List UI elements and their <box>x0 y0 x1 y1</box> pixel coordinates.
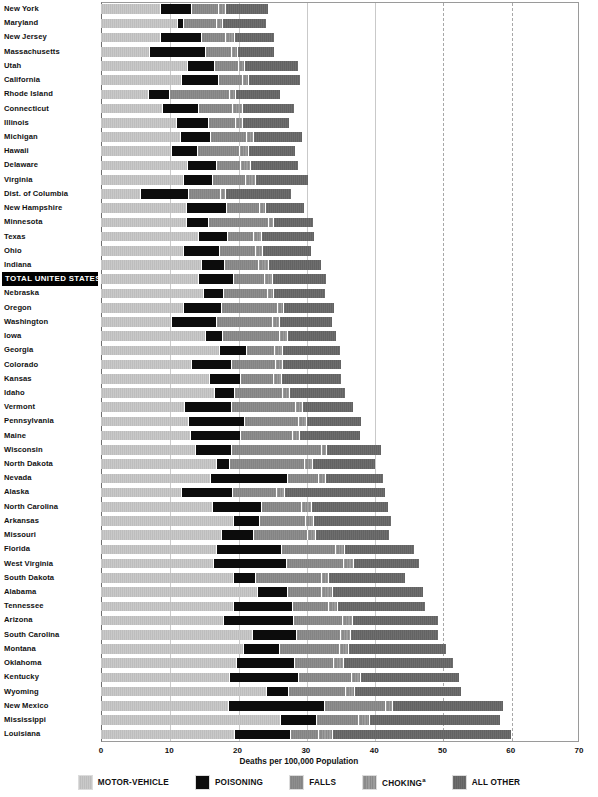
bar-row: South Dakota <box>0 571 598 585</box>
row-label: Rhode Island <box>4 87 96 101</box>
stacked-bar <box>101 203 304 213</box>
segment-choking <box>273 374 281 384</box>
segment-choking <box>279 331 287 341</box>
bar-row: Maryland <box>0 16 598 30</box>
legend-swatch-motor <box>78 775 93 790</box>
bar-row: Iowa <box>0 329 598 343</box>
segment-other <box>237 47 274 57</box>
legend-swatch-poison <box>195 775 210 790</box>
row-label: Montana <box>4 642 96 656</box>
segment-poison <box>186 203 226 213</box>
segment-falls <box>259 516 305 526</box>
segment-poison <box>198 232 227 242</box>
segment-other <box>244 61 298 71</box>
bar-row: Colorado <box>0 358 598 372</box>
segment-falls <box>255 573 321 583</box>
segment-choking <box>339 644 348 654</box>
segment-other <box>261 232 314 242</box>
stacked-bar <box>101 559 419 569</box>
segment-poison <box>214 388 234 398</box>
bar-row: TOTAL UNITED STATES <box>0 272 598 286</box>
stacked-bar <box>101 516 391 526</box>
x-tick-label: 60 <box>506 746 515 755</box>
legend-item-falls[interactable]: FALLS <box>289 775 336 790</box>
bar-row: Idaho <box>0 386 598 400</box>
row-label: West Virginia <box>4 557 96 571</box>
segment-choking <box>321 587 332 597</box>
bar-row: Arkansas <box>0 514 598 528</box>
segment-other <box>283 303 334 313</box>
segment-choking <box>274 346 282 356</box>
stacked-bar <box>101 232 314 242</box>
segment-poison <box>184 402 230 412</box>
stacked-bar-chart: New YorkMarylandNew JerseyMassachusettsU… <box>0 0 598 797</box>
bar-row: Virginia <box>0 173 598 187</box>
segment-motor <box>101 545 216 555</box>
segment-other <box>344 545 414 555</box>
segment-falls <box>231 445 320 455</box>
segment-poison <box>280 715 316 725</box>
segment-poison <box>252 630 296 640</box>
segment-falls <box>216 161 241 171</box>
segment-choking <box>343 559 353 569</box>
segment-falls <box>244 417 297 427</box>
segment-poison <box>162 104 198 114</box>
segment-motor <box>101 289 203 299</box>
segment-motor <box>101 374 209 384</box>
segment-other <box>289 388 344 398</box>
row-label: Wyoming <box>4 685 96 699</box>
segment-poison <box>234 730 290 740</box>
segment-poison <box>219 346 246 356</box>
bar-row: New York <box>0 2 598 16</box>
stacked-bar <box>101 602 425 612</box>
stacked-bar <box>101 388 345 398</box>
stacked-bar <box>101 175 308 185</box>
segment-choking <box>264 274 272 284</box>
segment-falls <box>169 90 228 100</box>
stacked-bar <box>101 658 453 668</box>
segment-falls <box>232 488 276 498</box>
segment-choking <box>318 730 332 740</box>
x-tick-label: 50 <box>438 746 447 755</box>
stacked-bar <box>101 61 298 71</box>
segment-falls <box>293 616 342 626</box>
legend-swatch-falls <box>289 775 304 790</box>
segment-other <box>352 616 439 626</box>
bar-row: Tennessee <box>0 599 598 613</box>
row-label: New York <box>4 2 96 16</box>
segment-other <box>222 19 266 29</box>
segment-motor <box>101 417 188 427</box>
segment-motor <box>101 488 181 498</box>
segment-other <box>273 289 325 299</box>
legend-item-motor[interactable]: MOTOR-VEHICLE <box>78 775 169 790</box>
segment-motor <box>101 602 233 612</box>
segment-poison <box>181 488 232 498</box>
legend-item-other[interactable]: ALL OTHER <box>452 775 521 790</box>
segment-choking <box>305 516 313 526</box>
legend-item-choking[interactable]: CHOKINGa <box>362 775 426 790</box>
segment-poison <box>223 616 293 626</box>
legend-item-poison[interactable]: POISONING <box>195 775 263 790</box>
segment-choking <box>232 104 242 114</box>
legend-label-other: ALL OTHER <box>472 778 521 787</box>
segment-falls <box>191 4 218 14</box>
segment-other <box>255 175 308 185</box>
bar-row: Illinois <box>0 116 598 130</box>
legend-swatch-other <box>452 775 467 790</box>
segment-other <box>287 331 336 341</box>
row-label: North Carolina <box>4 500 96 514</box>
segment-other <box>281 374 341 384</box>
segment-choking <box>276 488 284 498</box>
row-label: Oklahoma <box>4 656 96 670</box>
segment-motor <box>101 75 181 85</box>
segment-motor <box>101 246 183 256</box>
row-label: Hawaii <box>4 144 96 158</box>
segment-falls <box>188 189 221 199</box>
segment-falls <box>208 218 268 228</box>
segment-poison <box>188 417 245 427</box>
segment-other <box>343 658 453 668</box>
segment-falls <box>287 587 320 597</box>
segment-poison <box>221 530 253 540</box>
segment-falls <box>214 61 238 71</box>
row-label: Alaska <box>4 485 96 499</box>
